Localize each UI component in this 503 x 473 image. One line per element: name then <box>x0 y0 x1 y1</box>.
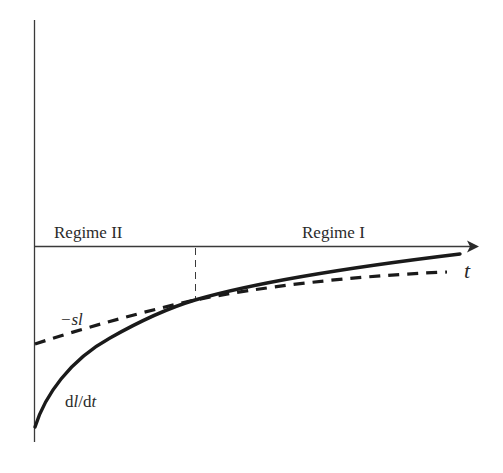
dl-dt-label: dl/dt <box>65 392 97 411</box>
dl-dt-t: t <box>91 392 97 411</box>
minus-sl-label: −sl <box>60 310 83 329</box>
regime-diagram: Regime II Regime I t −sl dl/dt <box>0 0 503 473</box>
curve-minus-sl <box>35 272 447 344</box>
dl-dt-slash-d: /d <box>78 392 92 411</box>
t-axis-label: t <box>464 258 471 283</box>
regime-ii-label: Regime II <box>54 223 123 242</box>
curve-dl-dt <box>35 254 460 427</box>
regime-i-label: Regime I <box>302 223 365 242</box>
